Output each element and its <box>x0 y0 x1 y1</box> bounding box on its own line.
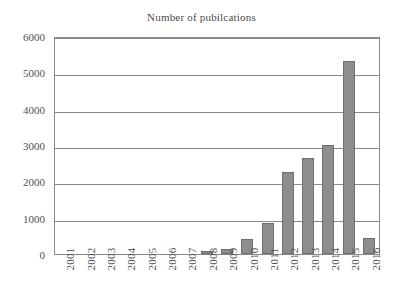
y-axis: 0100020003000400050006000 <box>0 37 50 255</box>
x-slot: 2002 <box>74 257 94 307</box>
x-slot: 2007 <box>176 257 196 307</box>
plot-area <box>54 37 380 255</box>
x-slot: 2011 <box>258 257 278 307</box>
bar-slot <box>156 39 176 254</box>
bar-slot <box>318 39 338 254</box>
chart-page: Number of pubilcations 01000200030004000… <box>0 0 403 308</box>
x-slot: 2016 <box>360 257 380 307</box>
y-tick-label: 2000 <box>23 176 45 188</box>
bar-slot <box>217 39 237 254</box>
bar-2013[interactable] <box>302 158 314 254</box>
bar-slot <box>278 39 298 254</box>
y-tick-label: 3000 <box>23 140 45 152</box>
bar-2015[interactable] <box>343 61 355 254</box>
bar-slot <box>359 39 379 254</box>
x-slot: 2005 <box>136 257 156 307</box>
bar-slot <box>237 39 257 254</box>
x-slot: 2010 <box>237 257 257 307</box>
x-slot: 2003 <box>95 257 115 307</box>
y-tick-label: 6000 <box>23 31 45 43</box>
bar-slot <box>55 39 75 254</box>
x-slot: 2008 <box>197 257 217 307</box>
x-slot: 2013 <box>299 257 319 307</box>
bar-2012[interactable] <box>282 172 294 254</box>
x-slot: 2009 <box>217 257 237 307</box>
bar-series <box>55 39 379 254</box>
x-slot: 2006 <box>156 257 176 307</box>
bar-slot <box>298 39 318 254</box>
bar-slot <box>339 39 359 254</box>
x-slot: 2014 <box>319 257 339 307</box>
bar-slot <box>116 39 136 254</box>
y-tick-label: 0 <box>40 249 46 261</box>
bar-slot <box>75 39 95 254</box>
bar-slot <box>197 39 217 254</box>
bar-slot <box>258 39 278 254</box>
x-axis: 2001200220032004200520062007200820092010… <box>54 257 380 307</box>
y-tick-label: 1000 <box>23 213 45 225</box>
x-slot: 2015 <box>339 257 359 307</box>
x-tick-label: 2016 <box>370 247 382 270</box>
x-slot: 2004 <box>115 257 135 307</box>
bar-slot <box>96 39 116 254</box>
x-slot: 2001 <box>54 257 74 307</box>
bar-2014[interactable] <box>322 145 334 254</box>
bar-slot <box>177 39 197 254</box>
bar-slot <box>136 39 156 254</box>
y-tick-label: 5000 <box>23 67 45 79</box>
y-tick-label: 4000 <box>23 104 45 116</box>
chart-title: Number of pubilcations <box>0 11 403 23</box>
x-slot: 2012 <box>278 257 298 307</box>
